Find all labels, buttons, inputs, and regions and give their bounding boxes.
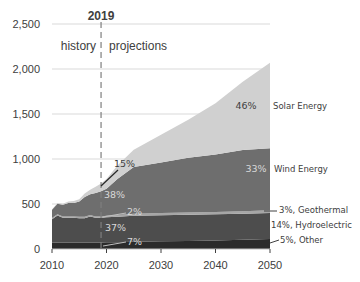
y-tick-label: 2,500 [12,18,40,30]
y-tick-label: 500 [22,198,40,210]
x-tick-label: 2010 [40,259,64,271]
stacked-area-chart: 05001,0001,5002,0002,500 201020202030204… [0,0,360,282]
hydro-2019-pct: 37% [105,222,126,233]
wind-2019-pct: 38% [104,189,125,200]
geothermal-2019-pct: 2% [127,206,142,217]
label-wind-energy: Wind Energy [274,164,328,174]
y-tick-label: 0 [34,243,40,255]
y-tick-label: 1,000 [12,153,40,165]
wind-2050-pct: 33% [245,163,266,174]
y-tick-label: 2,000 [12,63,40,75]
x-tick-label: 2020 [94,259,118,271]
divider-year-label: 2019 [88,9,115,23]
stacked-areas [52,63,270,249]
label-solar-energy: Solar Energy [273,101,327,111]
projections-label: projections [109,39,167,53]
x-axis: 20102020203020402050 [40,249,282,271]
solar-2019-pct: 15% [114,158,135,169]
leader-line [270,240,279,243]
label-other: 5%, Other [280,235,324,245]
y-axis-ticks: 05001,0001,5002,0002,500 [12,18,40,255]
x-tick-label: 2030 [149,259,173,271]
label-hydroelectric: 14%, Hydroelectric [271,220,352,230]
x-tick-label: 2040 [203,259,227,271]
x-tick-label: 2050 [258,259,282,271]
label-geothermal: 3%, Geothermal [279,205,348,215]
y-tick-label: 1,500 [12,108,40,120]
other-2019-pct: 7% [127,236,142,247]
solar-2050-pct: 46% [235,100,256,111]
history-label: history [61,39,96,53]
